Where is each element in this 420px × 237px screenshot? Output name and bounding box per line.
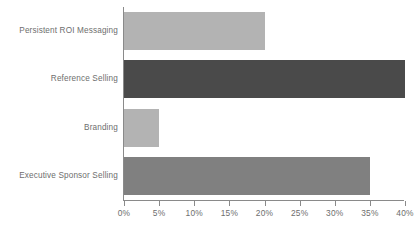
bar (124, 12, 265, 50)
x-axis-tick-label: 5% (153, 208, 166, 218)
x-axis-tick (405, 201, 406, 206)
x-axis-tick-label: 0% (118, 208, 131, 218)
x-axis-tick (265, 201, 266, 206)
x-axis-tick-labels: 0%5%10%15%20%25%30%35%40% (124, 208, 405, 222)
x-axis-ticks (124, 201, 405, 207)
x-axis-tick-label: 40% (396, 208, 413, 218)
bar-series (124, 7, 405, 200)
bar-chart: Persistent ROI MessagingReference Sellin… (0, 0, 420, 237)
x-axis-tick-label: 10% (186, 208, 203, 218)
x-axis-tick (370, 201, 371, 206)
x-axis-tick-label: 20% (256, 208, 273, 218)
category-label: Branding (0, 123, 118, 133)
category-label: Reference Selling (0, 74, 118, 84)
bar (124, 60, 405, 98)
bar (124, 109, 159, 147)
x-axis-tick-label: 35% (361, 208, 378, 218)
x-axis-tick (194, 201, 195, 206)
x-axis-tick-label: 25% (291, 208, 308, 218)
bar (124, 157, 370, 195)
x-axis-tick (229, 201, 230, 206)
x-axis-tick (159, 201, 160, 206)
x-axis-tick (300, 201, 301, 206)
x-axis-tick-label: 30% (326, 208, 343, 218)
category-axis-labels: Persistent ROI MessagingReference Sellin… (0, 7, 118, 200)
category-label: Executive Sponsor Selling (0, 171, 118, 181)
plot-area: Persistent ROI MessagingReference Sellin… (0, 0, 420, 237)
x-axis-tick (335, 201, 336, 206)
x-axis-tick-label: 15% (221, 208, 238, 218)
category-label: Persistent ROI Messaging (0, 26, 118, 36)
x-axis-tick (124, 201, 125, 206)
